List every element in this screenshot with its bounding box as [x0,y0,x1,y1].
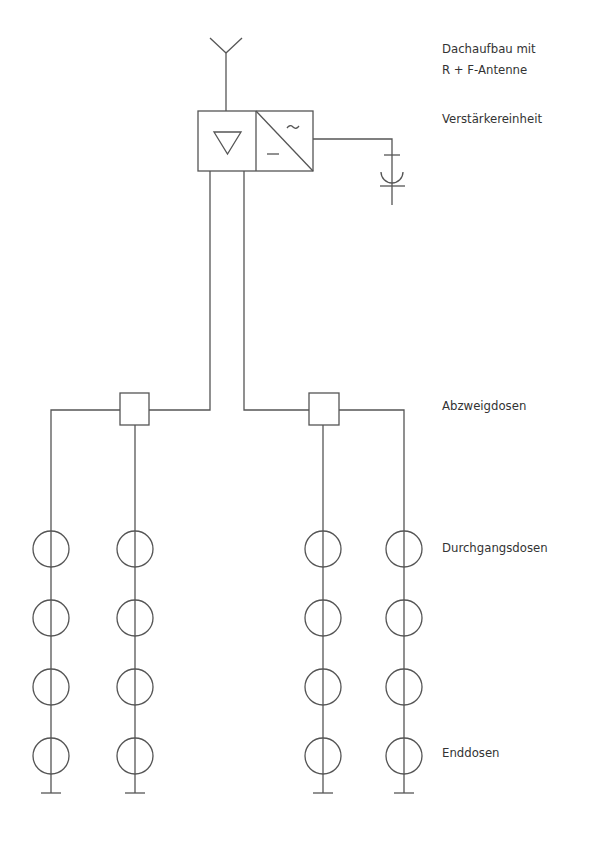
trunk-left [149,171,210,410]
label-roof-line2: R + F-Antenne [442,62,527,77]
amplifier-triangle-icon [214,132,241,154]
trunk-right [244,171,309,410]
label-branch-boxes: Abzweigdosen [442,398,526,413]
antenna-icon [210,38,242,111]
line-4 [339,410,404,793]
converter-diagonal [256,111,313,171]
line-1 [51,410,120,793]
ac-tilde-icon [287,126,299,129]
label-end-outlets: Enddosen [442,745,500,760]
branch-box-left [120,393,149,425]
antenna-distribution-diagram: Dachaufbau mit R + F-Antenne Verstärkere… [0,0,593,850]
label-roof-line1: Dachaufbau mit [442,41,536,56]
label-amplifier: Verstärkereinheit [442,111,542,126]
label-through-outlets: Durchgangsdosen [442,540,548,555]
branch-box-right [309,393,339,425]
amplifier-unit [198,111,313,171]
power-plug-icon [313,139,405,205]
